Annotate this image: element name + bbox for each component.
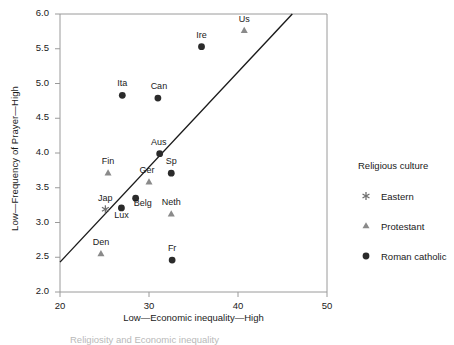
y-tick-label: 4.0 <box>19 146 49 157</box>
x-tick-label: 50 <box>312 300 342 311</box>
data-point-ger <box>146 178 153 184</box>
legend-entries: EasternProtestantRoman catholic <box>358 185 454 267</box>
data-point-den <box>97 250 104 256</box>
x-tick-label: 30 <box>134 300 164 311</box>
legend-item-label: Roman catholic <box>381 251 446 262</box>
data-point-fr <box>169 257 176 264</box>
data-point-label-fr: Fr <box>142 243 202 253</box>
data-point-fin <box>105 169 112 175</box>
data-point-label-can: Can <box>129 81 189 91</box>
triangle-icon <box>358 218 374 234</box>
data-point-label-jap: Jap <box>75 193 135 203</box>
y-tick-label: 5.0 <box>19 77 49 88</box>
legend-item-label: Protestant <box>381 221 424 232</box>
data-point-label-ger: Ger <box>117 165 177 175</box>
data-point-label-ire: Ire <box>172 30 232 40</box>
y-tick-label: 2.5 <box>19 250 49 261</box>
y-tick-label: 3.5 <box>19 181 49 192</box>
y-tick-label: 4.5 <box>19 111 49 122</box>
data-point-can <box>155 95 162 102</box>
data-point-label-lux: Lux <box>91 210 151 220</box>
x-tick-label: 20 <box>45 300 75 311</box>
legend-item-label: Eastern <box>381 191 414 202</box>
x-tick-label: 40 <box>223 300 253 311</box>
y-tick-label: 6.0 <box>19 7 49 18</box>
legend-item-eastern[interactable]: Eastern <box>358 185 454 207</box>
data-point-label-us: Us <box>214 14 274 24</box>
y-tick-label: 3.0 <box>19 216 49 227</box>
circle-icon <box>358 248 374 264</box>
legend-item-protestant[interactable]: Protestant <box>358 215 454 237</box>
x-axis-label: Low—Economic inequality—High <box>60 312 327 323</box>
data-point-ire <box>198 43 205 50</box>
data-point-us <box>241 27 248 33</box>
data-point-neth <box>168 210 175 216</box>
legend-title: Religious culture <box>358 160 454 171</box>
data-point-ita <box>119 92 126 99</box>
data-point-label-neth: Neth <box>141 197 201 207</box>
y-tick-label: 2.0 <box>19 285 49 296</box>
y-tick-label: 5.5 <box>19 42 49 53</box>
legend: Religious culture EasternProtestantRoman… <box>358 160 454 275</box>
data-point-label-aus: Aus <box>129 137 189 147</box>
y-axis-label: Low—Frequency of Prayer—High <box>9 59 20 259</box>
asterisk-icon <box>358 188 374 204</box>
data-point-label-den: Den <box>71 237 131 247</box>
figure-caption: Religiosity and Economic inequality <box>70 334 370 345</box>
legend-item-roman-catholic[interactable]: Roman catholic <box>358 245 454 267</box>
